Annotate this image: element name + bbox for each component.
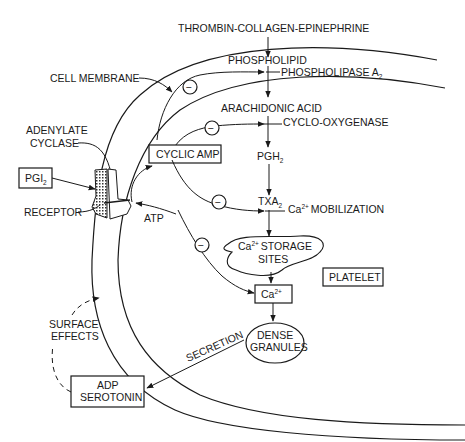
effects-label: EFFECTS xyxy=(51,330,99,342)
inhibit-symbol: − xyxy=(186,81,192,93)
dense-label: DENSE xyxy=(257,329,293,341)
cell-membrane-pointer xyxy=(139,78,172,92)
granules-label: GRANULES xyxy=(250,341,308,353)
phospholipase-label: PHOSPHOLIPASE A2 xyxy=(281,66,383,80)
pgh2-label: PGH2 xyxy=(257,150,284,164)
cell-membrane-label: CELL MEMBRANE xyxy=(50,72,139,84)
adenylate-label-2: CYCLASE xyxy=(30,137,79,149)
storage-label-1: Ca2+STORAGE xyxy=(238,240,312,252)
serotonin-label: SEROTONIN xyxy=(80,391,142,403)
platelet-pathway-diagram: THROMBIN-COLLAGEN-EPINEPHRINE PHOSPHOLIP… xyxy=(0,0,465,442)
adp-label: ADP xyxy=(97,379,119,391)
inhibit-symbol: − xyxy=(208,122,214,134)
inhibit-symbol: − xyxy=(198,239,204,251)
stimuli-label: THROMBIN-COLLAGEN-EPINEPHRINE xyxy=(178,22,369,34)
platelet-label: PLATELET xyxy=(329,271,381,283)
surface-label: SURFACE xyxy=(49,318,99,330)
pgi2-arrow xyxy=(52,178,95,189)
atp-to-camp-arrow xyxy=(131,166,152,202)
txa2-label: TXA2 xyxy=(258,195,282,209)
arachidonic-acid-label: ARACHIDONIC ACID xyxy=(221,102,322,114)
receptor-shape xyxy=(92,169,107,218)
inhibit-symbol: − xyxy=(215,196,221,208)
cyclo-oxygenase-label: CYCLO-OXYGENASE xyxy=(283,116,389,128)
secretion-label: SECRETION xyxy=(184,328,245,364)
receptor-label: RECEPTOR xyxy=(24,206,83,218)
cyclic-amp-label: CYCLIC AMP xyxy=(156,148,220,160)
phospholipid-label: PHOSPHOLIPID xyxy=(228,54,307,66)
adenylate-label-1: ADENYLATE xyxy=(26,124,88,136)
storage-label-2: SITES xyxy=(258,253,288,265)
surface-effects-dashed-lower xyxy=(52,345,71,392)
atp-label: ATP xyxy=(144,212,164,224)
ca-mobilization-label: Ca2+MOBILIZATION xyxy=(288,203,384,215)
